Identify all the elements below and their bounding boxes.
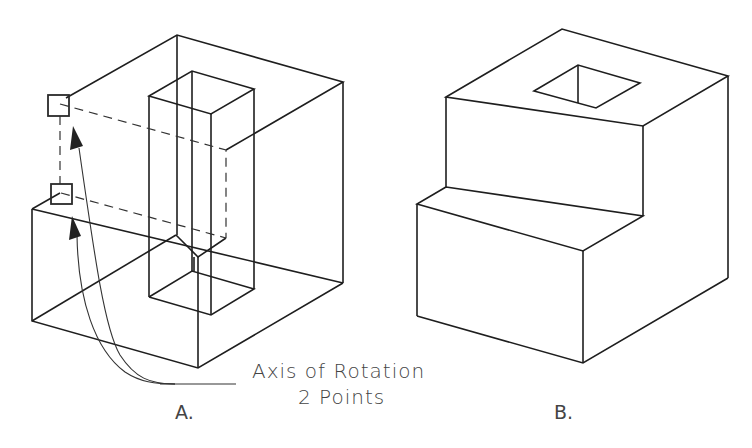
hidden-upper-edge bbox=[60, 104, 226, 238]
square-hole bbox=[534, 65, 640, 108]
annotation-line-2: 2 Points bbox=[298, 385, 385, 409]
step-top-face bbox=[417, 187, 643, 251]
leader-curve-point-2 bbox=[77, 235, 175, 384]
column-bottom-face bbox=[149, 271, 254, 315]
technical-drawing: Axis of Rotation 2 Points A. B. bbox=[0, 0, 752, 448]
view-a-wireframe bbox=[32, 35, 343, 384]
axis-point-2-marker[interactable] bbox=[51, 184, 72, 204]
annotation-line-1: Axis of Rotation bbox=[252, 359, 425, 383]
outer-box-top-left-edge bbox=[66, 35, 343, 150]
hidden-lower-edge bbox=[61, 193, 226, 238]
view-b-solid bbox=[417, 29, 728, 363]
lower-step-top-left bbox=[32, 193, 60, 209]
view-a-caption: A. bbox=[175, 401, 194, 423]
upper-top-face bbox=[446, 29, 728, 126]
arrowhead-point-1 bbox=[70, 126, 83, 150]
outer-box-base-diagonal bbox=[32, 235, 176, 321]
base-edges bbox=[417, 278, 728, 363]
column-top-face bbox=[149, 71, 254, 114]
view-b-caption: B. bbox=[554, 401, 573, 423]
